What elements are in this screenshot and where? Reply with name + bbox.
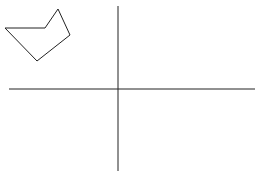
diagram-canvas	[0, 0, 260, 174]
pentagon-shape	[5, 9, 70, 61]
